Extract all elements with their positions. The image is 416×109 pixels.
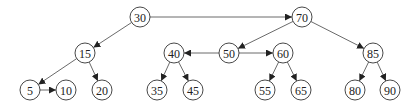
tree-node-40: 40 <box>164 43 184 63</box>
node-label: 60 <box>277 47 289 61</box>
tree-diagram: 3070154050608551020354555658090 <box>0 0 416 109</box>
tree-node-65: 65 <box>291 80 311 100</box>
edge-15-to-20 <box>89 62 98 81</box>
node-label: 45 <box>187 84 199 98</box>
node-label: 40 <box>168 47 180 61</box>
node-label: 80 <box>349 84 361 98</box>
node-label: 65 <box>295 84 307 98</box>
nodes-layer: 3070154050608551020354555658090 <box>20 7 400 100</box>
tree-node-10: 10 <box>56 80 76 100</box>
edge-40-to-45 <box>179 62 189 81</box>
edge-30-to-15 <box>93 22 131 47</box>
edge-60-to-65 <box>287 62 296 81</box>
tree-node-55: 55 <box>255 80 275 100</box>
tree-node-80: 80 <box>345 80 365 100</box>
edge-40-to-35 <box>161 62 170 81</box>
tree-node-30: 30 <box>130 7 150 27</box>
node-label: 35 <box>151 84 163 98</box>
edge-85-to-80 <box>359 62 368 81</box>
node-label: 70 <box>296 11 308 25</box>
edge-60-to-55 <box>269 62 278 81</box>
tree-node-50: 50 <box>219 43 239 63</box>
tree-node-45: 45 <box>183 80 203 100</box>
edge-85-to-90 <box>377 62 386 81</box>
node-label: 30 <box>134 11 146 25</box>
node-label: 5 <box>27 84 33 98</box>
tree-node-15: 15 <box>75 43 95 63</box>
node-label: 20 <box>96 84 108 98</box>
node-label: 90 <box>384 84 396 98</box>
node-label: 50 <box>223 47 235 61</box>
tree-node-5: 5 <box>20 80 40 100</box>
node-label: 85 <box>367 47 379 61</box>
edge-15-to-5 <box>38 59 76 85</box>
node-label: 55 <box>259 84 271 98</box>
tree-node-60: 60 <box>273 43 293 63</box>
tree-node-70: 70 <box>292 7 312 27</box>
node-label: 10 <box>60 84 72 98</box>
edge-70-to-85 <box>311 22 364 49</box>
tree-node-85: 85 <box>363 43 383 63</box>
tree-node-20: 20 <box>92 80 112 100</box>
node-label: 15 <box>79 47 91 61</box>
tree-node-35: 35 <box>147 80 167 100</box>
tree-node-90: 90 <box>380 80 400 100</box>
